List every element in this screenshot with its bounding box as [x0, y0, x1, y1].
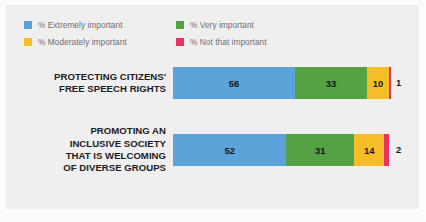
bar-segment-very-important[interactable]: 31	[286, 134, 354, 166]
chart-plot-area: PROTECTING CITIZENS' FREE SPEECH RIGHTS …	[6, 57, 419, 181]
bar-segment-not-that-important[interactable]	[384, 134, 388, 166]
chart-legend: % Extremely important % Very important %…	[24, 16, 354, 50]
bar-value-moderately-important: 10	[373, 78, 383, 89]
category-label-free-speech: PROTECTING CITIZENS' FREE SPEECH RIGHTS	[6, 71, 173, 96]
legend-item-not-that-important[interactable]: % Not that important	[176, 37, 346, 47]
bar-segment-moderately-important[interactable]: 10	[367, 67, 389, 99]
chart-canvas: % Extremely important % Very important %…	[0, 0, 426, 222]
bar-value-extremely-important: 56	[229, 78, 239, 89]
legend-swatch-green	[176, 21, 184, 29]
category-label-line: THAT IS WELCOMING	[6, 150, 166, 162]
bar-segment-not-that-important[interactable]	[389, 67, 391, 99]
category-label-line: INCLUSIVE SOCIETY	[6, 138, 166, 150]
chart-row-inclusive-society: PROMOTING AN INCLUSIVE SOCIETY THAT IS W…	[6, 119, 419, 181]
category-label-line: OF DIVERSE GROUPS	[6, 162, 166, 174]
category-label-inclusive-society: PROMOTING AN INCLUSIVE SOCIETY THAT IS W…	[6, 125, 173, 174]
bar-segment-extremely-important[interactable]: 56	[173, 67, 295, 99]
legend-item-moderately-important[interactable]: % Moderately important	[24, 37, 176, 47]
bar-segment-very-important[interactable]: 33	[295, 67, 367, 99]
legend-row-2: % Moderately important % Not that import…	[24, 33, 354, 50]
category-label-line: PROTECTING CITIZENS'	[6, 71, 166, 83]
legend-label-not-that-important: % Not that important	[190, 37, 267, 47]
bar-value-very-important: 33	[326, 78, 336, 89]
bar-value-extremely-important: 52	[224, 145, 234, 156]
bar-value-very-important: 31	[315, 145, 325, 156]
bar-area-inclusive-society: 52 31 14 2	[173, 119, 419, 181]
stacked-bar-inclusive-society: 52 31 14	[173, 134, 391, 166]
legend-label-very-important: % Very important	[190, 20, 254, 30]
bar-segment-extremely-important[interactable]: 52	[173, 134, 286, 166]
legend-swatch-crimson	[176, 38, 184, 46]
bar-segment-moderately-important[interactable]: 14	[354, 134, 385, 166]
category-label-line: FREE SPEECH RIGHTS	[6, 83, 166, 95]
legend-item-very-important[interactable]: % Very important	[176, 20, 346, 30]
stacked-bar-free-speech: 56 33 10	[173, 67, 391, 99]
bar-value-not-that-important: 2	[396, 145, 401, 154]
legend-item-extremely-important[interactable]: % Extremely important	[24, 20, 176, 30]
legend-row-1: % Extremely important % Very important	[24, 16, 354, 33]
legend-swatch-blue	[24, 21, 32, 29]
bar-value-not-that-important: 1	[396, 78, 401, 87]
bar-value-moderately-important: 14	[364, 145, 374, 156]
chart-row-free-speech: PROTECTING CITIZENS' FREE SPEECH RIGHTS …	[6, 57, 419, 109]
legend-label-moderately-important: % Moderately important	[38, 37, 127, 47]
legend-label-extremely-important: % Extremely important	[38, 20, 123, 30]
category-label-line: PROMOTING AN	[6, 125, 166, 137]
bar-area-free-speech: 56 33 10 1	[173, 57, 419, 109]
legend-swatch-yellow	[24, 38, 32, 46]
